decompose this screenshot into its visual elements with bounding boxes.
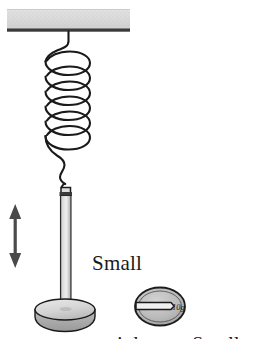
holder-label-line-2: weight: [92, 331, 150, 339]
small-weight-holder-label: Small weight holder: [92, 196, 150, 339]
support-bar: [7, 9, 130, 32]
holder-base: [35, 299, 95, 332]
holder-label-line-1: Small: [92, 250, 150, 277]
helical-spring: [46, 32, 91, 185]
small-weight-label: Small weight: [192, 282, 248, 339]
spring-weight-diagram: 10g Small weight holder Small weight: [0, 0, 271, 339]
holder-rod: [61, 196, 72, 309]
oscillation-arrow: [9, 204, 21, 268]
hook: [60, 184, 73, 197]
weight-label-line-1: Small: [192, 332, 248, 339]
weight-marking: 10g: [172, 302, 185, 312]
